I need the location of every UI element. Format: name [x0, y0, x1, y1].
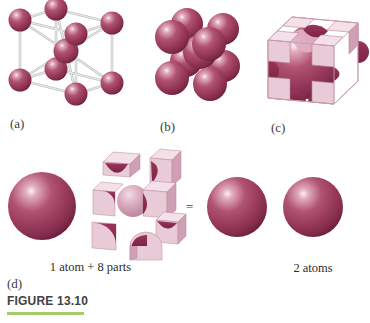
- result-atom-1: [207, 177, 267, 237]
- panel-label-d: (d): [7, 276, 22, 292]
- panel-label-b: (b): [160, 119, 175, 135]
- figure-13-10: (a) (b) (c) 1 atom + 8 parts = 2 atoms (…: [0, 0, 370, 323]
- caption-two-atoms: 2 atoms: [258, 261, 368, 276]
- caption-one-atom-eight-parts: 1 atom + 8 parts: [28, 260, 153, 275]
- panel-label-c: (c): [271, 120, 285, 136]
- bcc-ball-and-stick-model: [9, 0, 124, 106]
- exploded-eight-parts: [92, 149, 186, 260]
- figure-caption-underline: [7, 312, 84, 315]
- result-atom-2: [283, 177, 343, 237]
- panel-label-a: (a): [10, 116, 24, 132]
- bcc-space-filling-cluster: [155, 8, 240, 101]
- figure-caption: FIGURE 13.10: [7, 294, 88, 308]
- equals-sign: =: [186, 199, 193, 215]
- bcc-unit-cell-cutaway: [268, 17, 369, 104]
- single-atom-sphere: [8, 172, 76, 240]
